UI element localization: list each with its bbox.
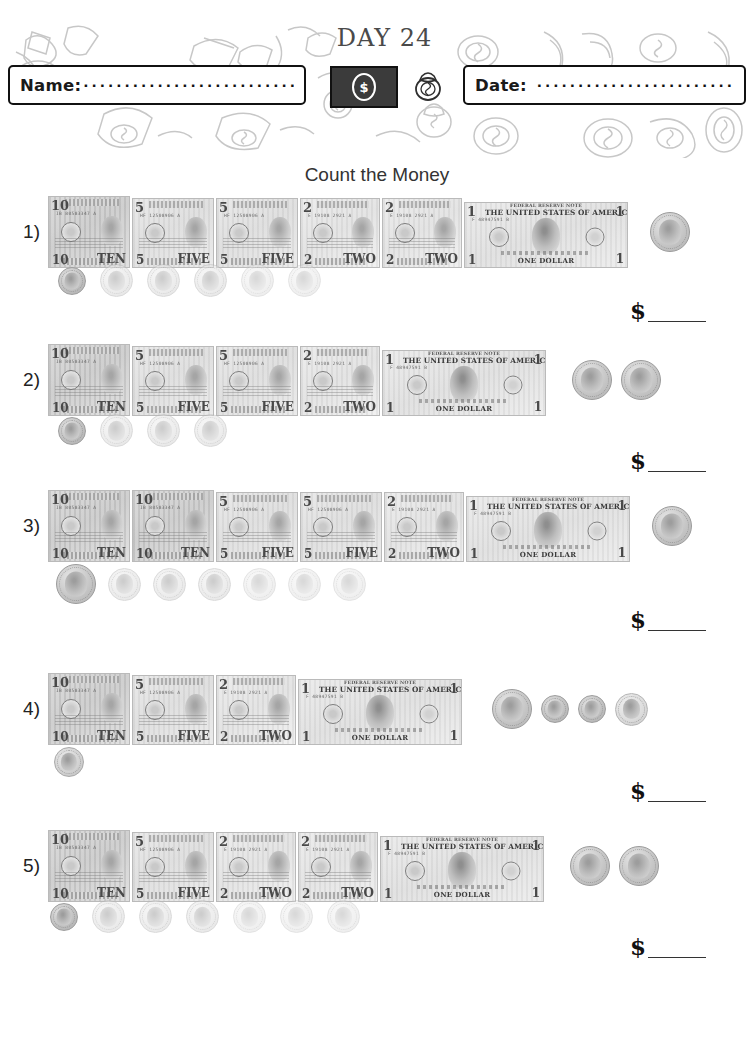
bill-corner-numeral-bottom-left: 2 <box>220 887 228 901</box>
coin-quarter <box>56 564 96 604</box>
bill-2-dollar: 2TWO2E 19108 2921 A <box>216 675 296 745</box>
bill-top-ornament <box>233 201 287 208</box>
bill-corner-numeral-bottom-right: 1 <box>450 729 458 743</box>
bill-portrait <box>366 695 394 731</box>
bill-corner-numeral-bottom-right: TWO <box>341 886 374 900</box>
answer-area[interactable]: $ <box>14 935 740 958</box>
problem-number: 4) <box>14 698 48 720</box>
bill-top-ornament <box>233 495 287 502</box>
coin-portrait <box>194 906 212 926</box>
bill-microprint-field <box>305 872 371 882</box>
bill-country-banner: THE UNITED STATES OF AMERICA <box>487 502 609 511</box>
bill-country-banner: THE UNITED STATES OF AMERICA <box>485 208 607 217</box>
answer-area[interactable]: $ <box>14 608 740 631</box>
coin-nickel <box>153 568 186 601</box>
coin-portrait <box>249 270 267 290</box>
date-dotted-line: ·························· <box>537 77 734 94</box>
coin-portrait <box>65 571 87 596</box>
coin-nickel <box>139 900 172 933</box>
bill-corner-numeral-bottom-right: FIVE <box>177 729 210 743</box>
bill-serial-number: IB 80583347 A <box>56 845 96 850</box>
bill-microprint-field <box>223 238 291 248</box>
bill-microprint-field <box>139 386 207 396</box>
answer-blank[interactable] <box>648 938 706 958</box>
coin-nickel <box>615 693 648 726</box>
bill-serial-number: E 19108 2921 A <box>224 690 268 695</box>
problem-2: 2)10TEN10IB 80583347 A5FIVE5HF 12508906 … <box>14 344 740 472</box>
bill-2-dollar: 2TWO2E 19108 2921 A <box>298 832 378 902</box>
bill-denomination-footer: ONE DOLLAR <box>403 404 525 413</box>
answer-area[interactable]: $ <box>14 449 740 472</box>
answer-area[interactable]: $ <box>14 779 740 802</box>
bill-top-microtext: FEDERAL RESERVE NOTE <box>487 497 609 502</box>
coin-portrait <box>108 270 126 290</box>
bill-corner-numeral-bottom-right: 1 <box>532 886 540 900</box>
problem-bills-row: 1)10TEN10IB 80583347 A5FIVE5HF 12508906 … <box>14 196 740 268</box>
bill-serial-number: HF 12508906 A <box>224 213 264 218</box>
problem-number: 2) <box>14 369 48 391</box>
answer-area[interactable]: $ <box>14 299 740 322</box>
bill-corner-numeral-bottom-right: TWO <box>343 252 376 266</box>
bill-corner-numeral-bottom-right: TWO <box>427 546 460 560</box>
money-bag-icon <box>411 68 445 102</box>
bill-treasury-seal <box>323 704 343 724</box>
coin-nickel <box>186 900 219 933</box>
bill-signature-line <box>501 251 592 255</box>
bill-corner-numeral-bottom-right: FIVE <box>345 546 378 560</box>
answer-blank[interactable] <box>648 302 706 322</box>
bill-2-dollar: 2TWO2E 19108 2921 A <box>300 198 380 268</box>
bill-corner-numeral-bottom-left: 10 <box>52 401 69 415</box>
answer-blank[interactable] <box>648 611 706 631</box>
bill-corner-numeral-bottom-right: 1 <box>534 400 542 414</box>
bill-corner-numeral-bottom-left: 1 <box>468 253 476 267</box>
answer-blank[interactable] <box>648 452 706 472</box>
bill-corner-numeral-bottom-right: TWO <box>259 729 292 743</box>
date-label: Date: <box>475 76 527 95</box>
coin-row <box>56 564 740 604</box>
coin-row <box>54 747 740 777</box>
name-field[interactable]: Name: ··································… <box>8 65 306 105</box>
bill-treasury-seal <box>405 861 425 881</box>
coin-portrait <box>581 367 603 392</box>
bill-reserve-seal <box>585 227 604 246</box>
coin-portrait <box>147 906 165 926</box>
bill-top-microtext: FEDERAL RESERVE NOTE <box>319 680 441 685</box>
page-title: Count the Money <box>0 164 754 186</box>
bill-top-ornament <box>65 493 119 500</box>
bill-corner-numeral-bottom-right: TEN <box>97 886 126 900</box>
bill-serial-number: E 19108 2921 A <box>308 213 352 218</box>
bill-corner-numeral-bottom-left: 2 <box>388 547 396 561</box>
bill-serial-number: E 19108 2921 A <box>308 361 352 366</box>
date-field[interactable]: Date: ·························· <box>463 65 746 105</box>
bill-corner-numeral-bottom-left: 2 <box>220 730 228 744</box>
right-coin-group <box>650 212 690 252</box>
answer-blank[interactable] <box>648 782 706 802</box>
coin-nickel <box>147 264 180 297</box>
coin-quarter <box>621 360 661 400</box>
bill-1-dollar: FEDERAL RESERVE NOTETHE UNITED STATES OF… <box>382 350 546 416</box>
bill-corner-numeral-bottom-left: 10 <box>52 547 69 561</box>
bill-serial-number: HF 12508906 A <box>140 213 180 218</box>
bill-serial-number: HF 12508906 A <box>224 507 264 512</box>
bill-5-dollar: 5FIVE5HF 12508906 A <box>132 675 214 745</box>
coin-quarter <box>572 360 612 400</box>
bill-serial-number: HF 12508906 A <box>140 361 180 366</box>
bill-country-banner: THE UNITED STATES OF AMERICA <box>319 685 441 694</box>
coin-dime <box>541 695 569 723</box>
bill-serial-number: E 19108 2921 A <box>392 507 436 512</box>
bill-corner-numeral-bottom-right: 1 <box>616 252 624 266</box>
coin-row <box>58 264 740 297</box>
right-coin-group <box>570 846 659 886</box>
bill-corner-numeral-bottom-right: TEN <box>97 729 126 743</box>
dollar-sign-label: $ <box>630 449 646 472</box>
bill-microprint-field <box>55 386 123 396</box>
bill-corner-numeral-bottom-left: 10 <box>136 547 153 561</box>
coin-portrait <box>64 272 79 289</box>
dollar-sign-label: $ <box>630 779 646 802</box>
bill-corner-numeral-bottom-left: 2 <box>304 401 312 415</box>
bill-top-ornament <box>65 199 119 206</box>
bill-serial-number: F 48947591 B <box>474 511 511 516</box>
bill-strip: 10TEN10IB 80583347 A5FIVE5HF 12508906 A2… <box>48 673 462 745</box>
coin-nickel <box>288 264 321 297</box>
coin-portrait <box>202 420 220 440</box>
